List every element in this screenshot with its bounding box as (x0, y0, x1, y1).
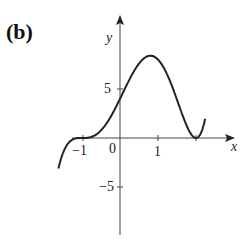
y-axis-label: y (106, 31, 112, 45)
x-tick-label-0: 0 (109, 142, 116, 156)
x-tick-label-minus1: −1 (72, 144, 87, 158)
x-axis-label: x (231, 140, 237, 154)
y-tick-label-minus5: −5 (99, 180, 114, 194)
y-axis (116, 15, 124, 235)
x-tick-label-1: 1 (154, 145, 161, 159)
y-tick-label-5: 5 (104, 82, 111, 96)
plot-area (0, 0, 248, 245)
